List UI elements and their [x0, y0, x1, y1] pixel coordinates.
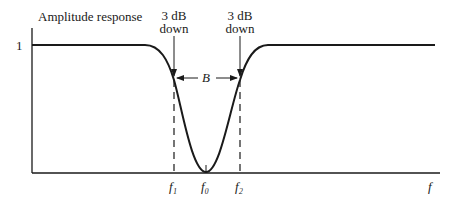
bandwidth-label: B [202, 71, 210, 84]
x-tick-f1: f₁ [169, 180, 177, 193]
right-3db-label: 3 dB down [220, 9, 260, 35]
y-axis-label: Amplitude response [38, 10, 142, 23]
left-3db-label: 3 dB down [154, 9, 194, 35]
right-3db-line2: down [220, 22, 260, 35]
x-axis-label: f [428, 180, 432, 193]
amplitude-response-curve [32, 45, 435, 172]
x-tick-f2: f₂ [235, 180, 243, 193]
left-3db-line2: down [154, 22, 194, 35]
x-tick-f0: f₀ [201, 180, 209, 193]
y-tick-label: 1 [16, 39, 23, 52]
